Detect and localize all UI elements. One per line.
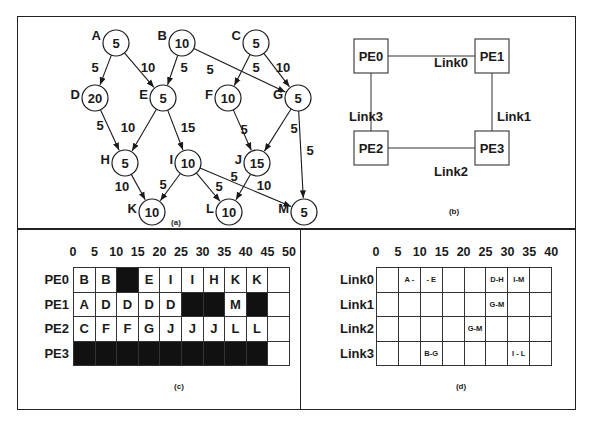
- task-cell: A -: [398, 268, 420, 293]
- task-cell: F: [117, 317, 139, 342]
- busy-cell: [117, 268, 139, 293]
- busy-cell: [246, 341, 268, 366]
- axis-tick: 30: [196, 245, 210, 259]
- row-pe0: BBEIIHKK: [74, 268, 290, 293]
- row-label-link0: Link0: [340, 272, 374, 287]
- row-pe3: [74, 341, 290, 366]
- task-cell: J: [181, 317, 203, 342]
- axis-tick: 0: [373, 245, 380, 259]
- row-pe1: ADDDDM: [74, 292, 290, 317]
- caption-c: (c): [174, 382, 184, 391]
- axis-tick: 40: [239, 245, 253, 259]
- row-label-link3: Link3: [340, 346, 374, 361]
- busy-cell: [95, 341, 117, 366]
- task-cell: D: [95, 292, 117, 317]
- row-pe2: CFFGJJJLL: [74, 317, 290, 342]
- task-cell: I - L: [508, 341, 530, 366]
- task-cell: D: [117, 292, 139, 317]
- axis-tick: 25: [479, 245, 493, 259]
- empty-cell: [268, 317, 290, 342]
- empty-cell: [486, 317, 508, 342]
- task-cell: B-G: [420, 341, 442, 366]
- empty-cell: [268, 292, 290, 317]
- axis-tick: 30: [500, 245, 514, 259]
- network-links: [371, 56, 492, 148]
- empty-cell: [442, 341, 464, 366]
- row-link0: A -- ED-HI-M: [377, 268, 552, 293]
- empty-cell: [398, 317, 420, 342]
- axis-tick: 5: [91, 245, 98, 259]
- row-label-pe0: PE0: [44, 272, 69, 287]
- empty-cell: [398, 341, 420, 366]
- axis-tick: 5: [394, 245, 401, 259]
- task-cell: E: [138, 268, 160, 293]
- task-cell: D-H: [486, 268, 508, 293]
- empty-cell: [530, 341, 552, 366]
- processor-network: PE0PE1PE2PE3Link0Link1Link2Link3: [0, 0, 589, 230]
- row-label-pe3: PE3: [44, 346, 69, 361]
- busy-cell: [203, 341, 225, 366]
- busy-cell: [246, 292, 268, 317]
- link-schedule-table: A -- ED-HI-MG-MG-MB-GI - L: [376, 267, 552, 366]
- task-cell: - E: [420, 268, 442, 293]
- busy-cell: [117, 341, 139, 366]
- empty-cell: [268, 268, 290, 293]
- axis-tick: 20: [457, 245, 471, 259]
- axis-tick: 20: [152, 245, 166, 259]
- empty-cell: [377, 317, 399, 342]
- empty-cell: [377, 268, 399, 293]
- caption-d: (d): [456, 382, 466, 391]
- axis-tick: 25: [174, 245, 188, 259]
- empty-cell: [530, 292, 552, 317]
- axis-tick: 45: [260, 245, 274, 259]
- row-label-link2: Link2: [340, 321, 374, 336]
- row-label-pe1: PE1: [44, 297, 69, 312]
- empty-cell: [442, 317, 464, 342]
- busy-cell: [203, 292, 225, 317]
- row-link2: G-M: [377, 317, 552, 342]
- pe-label: PE1: [480, 49, 505, 64]
- empty-cell: [420, 292, 442, 317]
- task-cell: D: [160, 292, 182, 317]
- task-cell: M: [225, 292, 247, 317]
- empty-cell: [464, 268, 486, 293]
- busy-cell: [225, 341, 247, 366]
- busy-cell: [160, 341, 182, 366]
- empty-cell: [530, 317, 552, 342]
- task-cell: F: [95, 317, 117, 342]
- busy-cell: [181, 292, 203, 317]
- task-cell: J: [160, 317, 182, 342]
- task-cell: L: [225, 317, 247, 342]
- task-cell: A: [74, 292, 96, 317]
- pe-pe1: PE1: [475, 39, 509, 73]
- task-cell: I: [160, 268, 182, 293]
- empty-cell: [398, 292, 420, 317]
- task-cell: D: [138, 292, 160, 317]
- task-cell: I-M: [508, 268, 530, 293]
- busy-cell: [74, 341, 96, 366]
- pe-pe3: PE3: [475, 131, 509, 165]
- link-label-link3: Link3: [349, 109, 383, 124]
- empty-cell: [486, 341, 508, 366]
- empty-cell: [420, 317, 442, 342]
- row-link3: B-GI - L: [377, 341, 552, 366]
- task-cell: G: [138, 317, 160, 342]
- busy-cell: [181, 341, 203, 366]
- empty-cell: [464, 292, 486, 317]
- empty-cell: [377, 292, 399, 317]
- pe-label: PE2: [359, 141, 384, 156]
- axis-tick: 35: [217, 245, 231, 259]
- task-cell: I: [181, 268, 203, 293]
- caption-b: (b): [449, 207, 459, 216]
- task-cell: H: [203, 268, 225, 293]
- empty-cell: [377, 341, 399, 366]
- empty-cell: [442, 268, 464, 293]
- empty-cell: [268, 341, 290, 366]
- empty-cell: [508, 317, 530, 342]
- task-cell: B: [74, 268, 96, 293]
- empty-cell: [530, 268, 552, 293]
- empty-cell: [442, 292, 464, 317]
- busy-cell: [138, 341, 160, 366]
- link-label-link0: Link0: [434, 55, 468, 70]
- pe-pe2: PE2: [354, 131, 388, 165]
